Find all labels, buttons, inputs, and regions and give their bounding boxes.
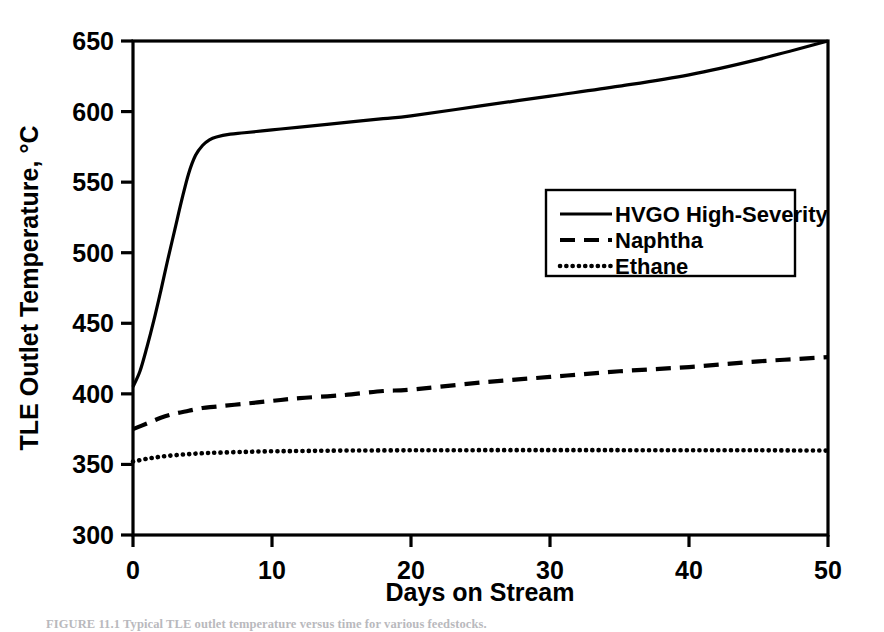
y-axis-ticks: 300350400450500550600650 <box>72 27 133 549</box>
legend-label-0: HVGO High-Severity <box>615 202 828 227</box>
y-tick-label: 400 <box>72 380 114 408</box>
y-tick-label: 550 <box>72 168 114 196</box>
legend: HVGO High-SeverityNaphthaEthane <box>546 190 828 279</box>
y-tick-label: 350 <box>72 450 114 478</box>
series-line-2 <box>133 450 828 461</box>
y-axis-title: TLE Outlet Temperature, °C <box>15 126 43 451</box>
x-tick-label: 0 <box>126 556 140 584</box>
figure-caption: FIGURE 11.1 Typical TLE outlet temperatu… <box>46 617 846 632</box>
y-tick-label: 650 <box>72 27 114 55</box>
plot-frame <box>133 41 828 535</box>
x-tick-label: 10 <box>258 556 286 584</box>
y-tick-label: 300 <box>72 521 114 549</box>
x-axis-title: Days on Stream <box>386 578 575 606</box>
x-axis-ticks: 01020304050 <box>126 535 842 584</box>
legend-label-1: Naphtha <box>615 228 704 253</box>
x-tick-label: 40 <box>675 556 703 584</box>
y-tick-label: 500 <box>72 239 114 267</box>
legend-label-2: Ethane <box>615 254 688 279</box>
x-tick-label: 50 <box>814 556 842 584</box>
y-tick-label: 450 <box>72 309 114 337</box>
series-line-1 <box>133 357 828 429</box>
y-tick-label: 600 <box>72 98 114 126</box>
